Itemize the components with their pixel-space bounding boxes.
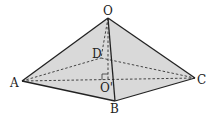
face-OBC [108, 18, 195, 101]
label-O: O [103, 4, 113, 18]
label-B: B [110, 102, 119, 116]
label-A: A [9, 76, 19, 90]
label-D: D [92, 47, 102, 61]
pyramid-diagram: O A B C D O' [0, 0, 210, 118]
label-O-prime: O' [100, 81, 113, 95]
label-C: C [197, 73, 206, 87]
